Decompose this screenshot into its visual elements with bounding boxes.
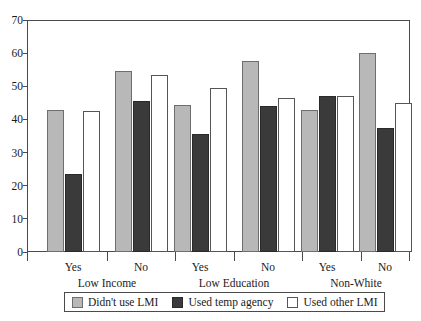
bar-chart-figure: 010203040506070 YesNoYesNoYesNoLow Incom… — [0, 0, 421, 321]
x-axis-separator — [27, 252, 28, 261]
bar — [210, 88, 227, 252]
x-axis-group-label: Low Income — [52, 277, 162, 289]
bar — [319, 96, 336, 252]
bar — [47, 110, 64, 253]
y-axis-tick: 50 — [12, 79, 28, 93]
y-axis-tick: 70 — [12, 13, 28, 27]
x-axis-separator — [234, 252, 235, 261]
bar — [260, 106, 277, 252]
x-axis-category-label: No — [238, 261, 298, 273]
y-axis-tick: 30 — [12, 146, 28, 160]
bar — [377, 128, 394, 252]
x-axis-group-label: Low Education — [179, 277, 289, 289]
legend-item: Didn't use LMI — [72, 296, 158, 308]
x-axis: YesNoYesNoYesNoLow IncomeLow EducationNo… — [27, 252, 410, 296]
bar — [242, 61, 259, 252]
bar — [174, 105, 191, 252]
bar — [192, 134, 209, 252]
bar — [337, 96, 354, 252]
x-axis-separator — [361, 252, 362, 261]
x-axis-separator — [409, 252, 410, 261]
x-axis-group-label: Non-White — [301, 277, 411, 289]
bar — [83, 111, 100, 252]
x-axis-category-label: No — [355, 261, 415, 273]
legend-swatch-icon — [287, 297, 298, 308]
x-axis-separator — [175, 252, 176, 261]
y-axis-tick: 40 — [12, 112, 28, 126]
legend-label: Used temp agency — [188, 296, 273, 308]
bar-group — [47, 20, 100, 252]
x-axis-separator — [302, 252, 303, 261]
x-axis-separator — [107, 252, 108, 261]
legend-swatch-icon — [72, 297, 83, 308]
bar-group — [359, 20, 412, 252]
bar — [65, 174, 82, 252]
y-axis: 010203040506070 — [0, 0, 27, 272]
legend-item: Used temp agency — [172, 296, 273, 308]
x-axis-category-label: Yes — [297, 261, 357, 273]
bar — [115, 71, 132, 252]
y-axis-tick: 60 — [12, 46, 28, 60]
y-axis-tick: 10 — [12, 212, 28, 226]
bar — [359, 53, 376, 252]
legend-swatch-icon — [172, 297, 183, 308]
x-axis-category-label: Yes — [43, 261, 103, 273]
bars-layer — [27, 20, 410, 252]
bar-group — [242, 20, 295, 252]
bar — [151, 75, 168, 252]
bar — [278, 98, 295, 252]
y-axis-tick: 20 — [12, 179, 28, 193]
legend-label: Didn't use LMI — [88, 296, 158, 308]
x-axis-category-label: No — [111, 261, 171, 273]
legend-label: Used other LMI — [303, 296, 377, 308]
x-axis-category-label: Yes — [170, 261, 230, 273]
legend-item: Used other LMI — [287, 296, 377, 308]
chart-legend: Didn't use LMIUsed temp agencyUsed other… — [64, 292, 385, 312]
bar-group — [174, 20, 227, 252]
y-axis-tick: 0 — [17, 245, 27, 259]
bar-group — [115, 20, 168, 252]
bar — [301, 110, 318, 253]
bar — [133, 101, 150, 252]
bar-group — [301, 20, 354, 252]
bar — [395, 103, 412, 252]
